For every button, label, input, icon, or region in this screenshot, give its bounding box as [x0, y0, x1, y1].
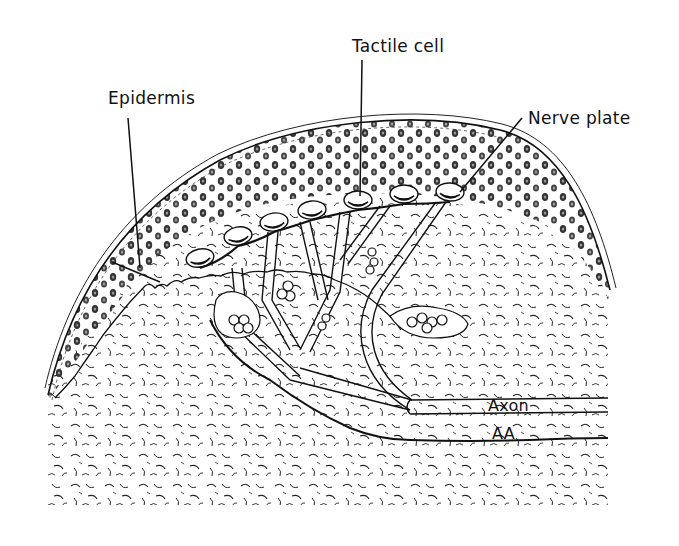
diagram-illustration [0, 0, 679, 546]
label-aa: AA [492, 424, 515, 443]
label-nerve-plate: Nerve plate [528, 108, 630, 128]
label-tactile-cell: Tactile cell [352, 36, 444, 56]
tactile-corpuscle-diagram: Epidermis Tactile cell Nerve plate Axon … [0, 0, 679, 546]
label-epidermis: Epidermis [108, 88, 195, 108]
label-axon: Axon [488, 396, 529, 415]
